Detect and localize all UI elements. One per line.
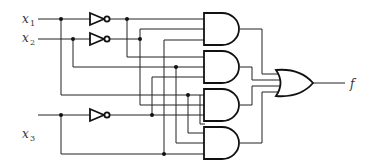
not-gate-x1 — [90, 13, 110, 25]
and-gate-4 — [204, 127, 239, 159]
output-label-f: f — [349, 77, 357, 91]
input-label-x1: x 1 — [22, 12, 35, 28]
and-gate-1 — [204, 13, 239, 45]
svg-text:2: 2 — [30, 38, 35, 47]
svg-text:x: x — [22, 12, 29, 26]
svg-text:x: x — [22, 31, 29, 45]
not-gate-x2 — [90, 33, 110, 45]
logic-circuit-diagram: x 1 x 2 x 3 f — [0, 0, 375, 167]
and-gate-3 — [204, 89, 239, 121]
input-label-x3: x 3 — [22, 127, 35, 143]
junction-dots — [59, 17, 190, 156]
svg-text:x: x — [22, 127, 29, 141]
input-label-x2: x 2 — [22, 31, 35, 47]
svg-text:f: f — [349, 77, 357, 91]
svg-text:1: 1 — [30, 19, 35, 28]
not-gate-x3 — [90, 109, 110, 121]
or-gate — [276, 70, 313, 96]
svg-text:3: 3 — [30, 134, 35, 143]
and-gate-2 — [204, 51, 239, 83]
